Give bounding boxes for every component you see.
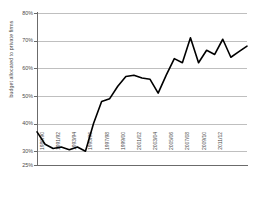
series-polyline <box>37 38 247 151</box>
series-line <box>0 0 261 199</box>
line-chart: budget allocated to private firms 25%30%… <box>0 0 261 199</box>
